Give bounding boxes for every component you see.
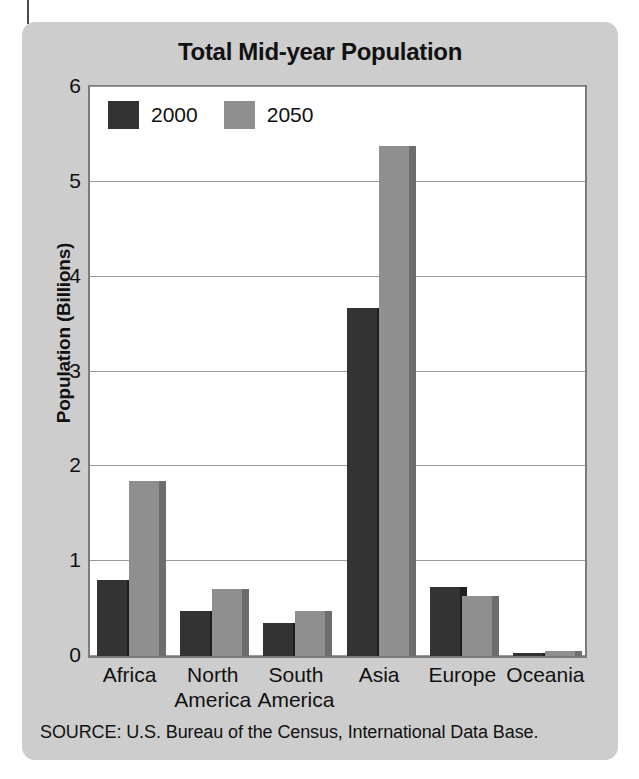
- bar-face: [545, 651, 575, 656]
- y-tick-label: 3: [69, 359, 81, 383]
- y-tick-label: 6: [69, 74, 81, 98]
- bar-south-america-2050: [295, 611, 325, 656]
- x-label-north-america: North America: [171, 662, 254, 712]
- y-tick-label: 0: [69, 643, 81, 667]
- chart-legend: 2000 2050: [108, 101, 313, 129]
- bar-face: [513, 653, 543, 656]
- x-label-asia: Asia: [338, 662, 421, 687]
- bar-face: [462, 596, 492, 656]
- bar-group: [180, 87, 249, 656]
- y-tick-label: 1: [69, 548, 81, 572]
- bar-face: [129, 481, 159, 656]
- x-label-south-america: South America: [254, 662, 337, 712]
- bar-oceania-2000: [513, 653, 543, 656]
- bar-north-america-2050: [212, 589, 242, 656]
- y-tick-label: 5: [69, 169, 81, 193]
- bar-face: [347, 308, 377, 656]
- legend-label-2050: 2050: [267, 103, 314, 127]
- legend-label-2000: 2000: [151, 103, 198, 127]
- bar-europe-2000: [430, 587, 460, 656]
- bar-face: [97, 580, 127, 656]
- bar-africa-2000: [97, 580, 127, 656]
- bar-oceania-2050: [545, 651, 575, 656]
- y-tick-label: 4: [69, 264, 81, 288]
- x-axis-labels: AfricaNorth AmericaSouth AmericaAsiaEuro…: [88, 662, 587, 718]
- source-note: SOURCE: U.S. Bureau of the Census, Inter…: [40, 722, 538, 743]
- bar-side-shadow: [409, 146, 416, 656]
- legend-entry-2000: 2000: [108, 101, 198, 129]
- x-label-oceania: Oceania: [504, 662, 587, 687]
- plot-area: 0123456 2000 2050: [88, 85, 587, 658]
- bars-layer: [90, 87, 585, 656]
- bar-group: [347, 87, 416, 656]
- bar-side-shadow: [492, 596, 499, 656]
- bar-asia-2000: [347, 308, 377, 656]
- bar-side-shadow: [325, 611, 332, 656]
- bar-face: [263, 623, 293, 656]
- legend-swatch-2000: [108, 101, 139, 129]
- bar-side-shadow: [575, 651, 582, 656]
- bar-side-shadow: [242, 589, 249, 656]
- bar-group: [263, 87, 332, 656]
- bar-side-shadow: [159, 481, 166, 656]
- chart-title: Total Mid-year Population: [22, 38, 618, 66]
- legend-swatch-2050: [224, 101, 255, 129]
- bar-africa-2050: [129, 481, 159, 656]
- bar-face: [430, 587, 460, 656]
- bar-south-america-2000: [263, 623, 293, 656]
- bar-europe-2050: [462, 596, 492, 656]
- legend-entry-2050: 2050: [224, 101, 314, 129]
- bar-group: [97, 87, 166, 656]
- y-tick-label: 2: [69, 453, 81, 477]
- top-margin-rule: [27, 0, 29, 24]
- bar-face: [212, 589, 242, 656]
- bar-face: [379, 146, 409, 656]
- figure-panel: Total Mid-year Population Population (Bi…: [22, 22, 618, 760]
- x-label-europe: Europe: [421, 662, 504, 687]
- x-label-africa: Africa: [88, 662, 171, 687]
- bar-group: [513, 87, 582, 656]
- y-axis-title: Population (Billions): [53, 183, 75, 483]
- bar-group: [430, 87, 499, 656]
- bar-asia-2050: [379, 146, 409, 656]
- bar-face: [180, 611, 210, 656]
- bar-north-america-2000: [180, 611, 210, 656]
- bar-face: [295, 611, 325, 656]
